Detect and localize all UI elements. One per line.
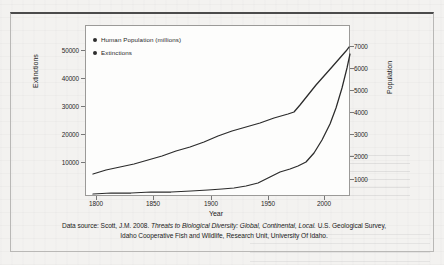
x-tickmark xyxy=(96,196,97,200)
chart-curves xyxy=(36,22,408,212)
y-tick-right: 1000 xyxy=(354,176,394,183)
y-tick-left: 50000 xyxy=(35,47,79,54)
x-tickmark xyxy=(324,196,325,200)
legend-label: Extinctions xyxy=(101,47,132,58)
y-tick-right: 7000 xyxy=(354,43,394,50)
y-tickmark-right xyxy=(350,134,354,135)
y-tickmark-right xyxy=(350,112,354,113)
x-tickmark xyxy=(153,196,154,200)
y-tick-right: 3000 xyxy=(354,131,394,138)
legend-item-human-population: Human Population (millions) xyxy=(93,34,181,45)
series-line-extinctions xyxy=(93,47,349,174)
x-tick: 1950 xyxy=(248,200,288,207)
x-tick: 2000 xyxy=(304,200,344,207)
y-tickmark-left xyxy=(81,134,85,135)
y-tickmark-right xyxy=(350,68,354,69)
y-tickmark-right xyxy=(350,90,354,91)
x-tick: 1850 xyxy=(133,200,173,207)
y-tick-left: 10000 xyxy=(35,159,79,166)
y-tick-left: 40000 xyxy=(35,75,79,82)
figure-caption: Data source: Scott, J.M. 2008. Threats t… xyxy=(26,221,422,240)
caption-prefix: Data source: Scott, J.M. 2008. xyxy=(62,222,151,229)
x-tick: 1800 xyxy=(76,200,116,207)
chart-figure: Human Population (millions) Extinctions … xyxy=(36,22,408,212)
y-tick-left: 30000 xyxy=(35,103,79,110)
y-tickmark-right xyxy=(350,46,354,47)
y-axis-title-right: Population xyxy=(386,61,393,94)
caption-suffix: U.S. Geological Survey, xyxy=(316,222,386,229)
x-axis-title: Year xyxy=(176,210,256,217)
scanned-page: Human Population (millions) Extinctions … xyxy=(0,0,444,265)
y-tickmark-left xyxy=(81,162,85,163)
legend-marker-icon xyxy=(93,51,97,55)
legend-marker-icon xyxy=(93,38,97,42)
x-tickmark xyxy=(211,196,212,200)
legend-label: Human Population (millions) xyxy=(101,34,181,45)
legend-item-extinctions: Extinctions xyxy=(93,47,181,58)
series-line-human-population xyxy=(93,54,350,194)
caption-line-2: Idaho Cooperative Fish and Wildlife, Res… xyxy=(120,232,328,239)
y-tick-right: 2000 xyxy=(354,153,394,160)
y-tickmark-left xyxy=(81,50,85,51)
y-tickmark-right xyxy=(350,179,354,180)
chart-legend: Human Population (millions) Extinctions xyxy=(93,34,181,60)
y-tick-right: 4000 xyxy=(354,109,394,116)
y-axis-title-left: Extinctions xyxy=(32,54,39,88)
x-tickmark xyxy=(268,196,269,200)
caption-title-italic: Threats to Biological Diversity: Global,… xyxy=(151,222,316,229)
y-tickmark-right xyxy=(350,156,354,157)
y-tickmark-left xyxy=(81,78,85,79)
y-tickmark-left xyxy=(81,106,85,107)
y-tick-left: 20000 xyxy=(35,131,79,138)
x-tick: 1900 xyxy=(191,200,231,207)
